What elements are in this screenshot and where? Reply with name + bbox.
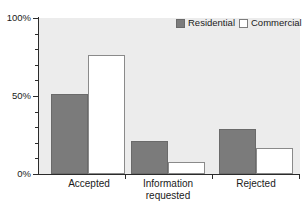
y-tick-minor-40 — [35, 112, 38, 113]
x-tick-sep-2 — [212, 175, 213, 179]
y-tick-minor-90 — [35, 34, 38, 35]
x-category-label-line1: Information — [143, 178, 193, 189]
y-tick-label-0: 0% — [0, 169, 31, 179]
commercial-swatch-icon — [239, 19, 248, 28]
y-tick-label-50: 50% — [0, 91, 31, 101]
bar-residential-information-requested — [131, 141, 168, 174]
y-tick-minor-60 — [35, 80, 38, 81]
x-category-label-rejected: Rejected — [214, 178, 298, 190]
bar-residential-accepted — [51, 94, 88, 174]
y-tick-label-100: 100% — [0, 13, 31, 23]
bar-residential-rejected — [219, 129, 256, 174]
y-tick-minor-70 — [35, 65, 38, 66]
y-tick-minor-80 — [35, 49, 38, 50]
y-tick-minor-10 — [35, 158, 38, 159]
x-category-label-accepted: Accepted — [48, 178, 130, 190]
x-category-label-line2: requested — [146, 190, 190, 201]
y-tick-0 — [33, 174, 38, 175]
y-axis-line — [38, 17, 39, 175]
y-tick-100 — [33, 18, 38, 19]
bar-commercial-accepted — [88, 55, 125, 174]
bar-commercial-information-requested — [168, 162, 205, 175]
y-tick-minor-30 — [35, 127, 38, 128]
bar-chart: 100% 50% 0% Accepted Informationrequeste… — [0, 0, 308, 209]
x-tick-end — [299, 175, 300, 179]
legend-item-commercial: Commercial — [239, 18, 302, 28]
legend-item-residential: Residential — [176, 18, 235, 28]
y-tick-50 — [33, 96, 38, 97]
chart-legend: Residential Commercial — [176, 18, 302, 28]
bar-commercial-rejected — [256, 148, 293, 175]
y-tick-minor-20 — [35, 143, 38, 144]
residential-swatch-icon — [176, 19, 185, 28]
x-axis-line — [38, 174, 300, 175]
legend-label-commercial: Commercial — [251, 18, 302, 28]
legend-label-residential: Residential — [188, 18, 235, 28]
x-category-label-information-requested: Informationrequested — [126, 178, 210, 201]
